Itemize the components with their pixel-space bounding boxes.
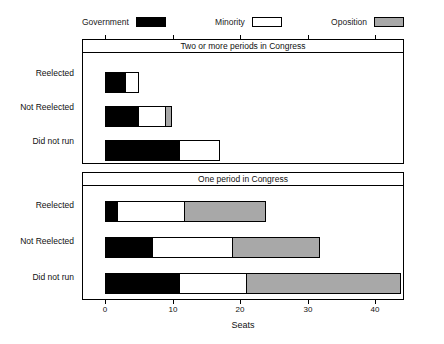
y-label-bottom-did-not-run: Did not run <box>32 272 74 282</box>
bar-segment-oposition <box>165 106 172 127</box>
panel-bottom-strip: One period in Congress <box>83 173 403 186</box>
bar-top-reelected <box>105 72 139 93</box>
bar-bottom-reelected <box>105 201 266 222</box>
bar-segment-oposition <box>246 273 401 294</box>
x-tick-20 <box>240 300 241 304</box>
bar-segment-government <box>105 237 153 258</box>
bar-segment-minority <box>125 72 139 93</box>
legend-entry-oposition: Oposition <box>331 17 404 27</box>
x-tick-label-30: 30 <box>304 305 313 314</box>
bar-segment-government <box>105 106 139 127</box>
y-label-top-not-reelected: Not Reelected <box>20 102 74 112</box>
legend-label-government: Government <box>82 17 129 27</box>
legend-swatch-government <box>136 17 166 27</box>
x-tick-10 <box>173 300 174 304</box>
x-tick-30 <box>308 300 309 304</box>
y-label-top-reelected: Reelected <box>36 68 74 78</box>
panel-top-strip: Two or more periods in Congress <box>83 40 403 53</box>
legend-swatch-oposition <box>374 17 404 27</box>
x-axis: 0 10 20 30 40 <box>82 300 404 318</box>
panel-one-period: One period in Congress <box>82 172 404 300</box>
bar-segment-government <box>105 72 126 93</box>
chart-figure: Government Minority Oposition Reelected … <box>0 0 444 344</box>
x-axis-title: Seats <box>82 320 404 331</box>
bar-segment-minority <box>152 237 233 258</box>
bar-segment-government <box>105 140 180 161</box>
legend-label-oposition: Oposition <box>331 17 367 27</box>
y-label-bottom-not-reelected: Not Reelected <box>20 236 74 246</box>
bar-segment-government <box>105 273 180 294</box>
bar-segment-minority <box>179 140 220 161</box>
legend-swatch-minority <box>252 17 282 27</box>
bar-segment-oposition <box>184 201 266 222</box>
bar-segment-minority <box>138 106 166 127</box>
chart-legend: Government Minority Oposition <box>82 14 404 30</box>
bar-bottom-not-reelected <box>105 237 320 258</box>
bar-segment-minority <box>179 273 247 294</box>
panel-two-or-more-periods: Two or more periods in Congress <box>82 39 404 164</box>
x-tick-label-20: 20 <box>236 305 245 314</box>
x-tick-40 <box>375 300 376 304</box>
panel-top-plot-area <box>83 53 403 163</box>
bar-bottom-did-not-run <box>105 273 401 294</box>
x-tick-label-40: 40 <box>371 305 380 314</box>
x-axis-top-ticks <box>82 31 404 39</box>
legend-entry-government: Government <box>82 17 166 27</box>
x-tick-label-10: 10 <box>169 305 178 314</box>
bar-segment-minority <box>117 201 185 222</box>
y-label-top-did-not-run: Did not run <box>32 136 74 146</box>
legend-label-minority: Minority <box>215 17 245 27</box>
panel-bottom-plot-area <box>83 186 403 299</box>
bar-top-not-reelected <box>105 106 172 127</box>
legend-entry-minority: Minority <box>215 17 282 27</box>
bar-top-did-not-run <box>105 140 220 161</box>
x-tick-label-0: 0 <box>103 305 107 314</box>
y-label-bottom-reelected: Reelected <box>36 200 74 210</box>
panel-bottom-strip-label: One period in Congress <box>198 174 288 184</box>
x-tick-0 <box>105 300 106 304</box>
panel-top-strip-label: Two or more periods in Congress <box>180 41 305 51</box>
bar-segment-oposition <box>232 237 320 258</box>
